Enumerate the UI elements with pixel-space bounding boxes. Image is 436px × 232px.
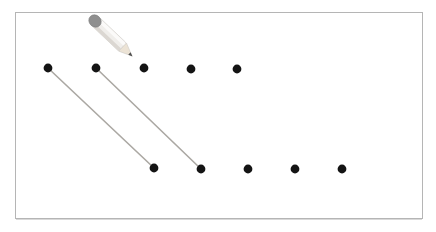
worksheet-frame [16, 13, 423, 219]
dot-bottom-2[interactable] [197, 165, 206, 174]
dot-bottom-1[interactable] [150, 164, 159, 173]
dot-top-3[interactable] [140, 64, 149, 73]
dot-bottom-4[interactable] [291, 165, 300, 174]
dot-bottom-3[interactable] [244, 165, 253, 174]
matching-exercise-stage [0, 0, 436, 232]
matching-diagram-svg [0, 0, 436, 232]
dot-top-5[interactable] [233, 65, 242, 74]
dot-top-2[interactable] [92, 64, 101, 73]
dot-top-4[interactable] [187, 65, 196, 74]
dot-top-1[interactable] [44, 64, 53, 73]
dot-bottom-5[interactable] [338, 165, 347, 174]
